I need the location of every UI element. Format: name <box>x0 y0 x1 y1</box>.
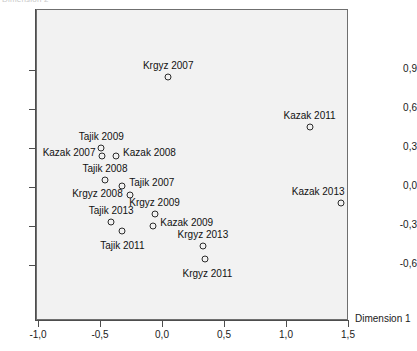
x-tick-mark <box>100 321 101 327</box>
y-axis-line <box>35 9 36 321</box>
y-tick-label: -0,3 <box>389 219 417 230</box>
x-tick-mark <box>348 321 349 327</box>
data-point-label: Tajik 2013 <box>89 205 134 216</box>
x-tick-label: 1,5 <box>341 329 355 340</box>
y-tick-label: 0,9 <box>389 63 417 74</box>
data-point-label: Kazak 2011 <box>284 110 336 121</box>
data-point-marker[interactable] <box>151 211 158 218</box>
y-tick-mark <box>29 148 35 149</box>
x-tick-label: -1,0 <box>29 329 46 340</box>
y-tick-label: 0,3 <box>389 141 417 152</box>
data-point-label: Tajik 2009 <box>79 131 124 142</box>
data-point-label: Tajik 2007 <box>129 177 174 188</box>
data-point-marker[interactable] <box>99 153 106 160</box>
y-axis-title: Dimension 2 <box>2 0 49 4</box>
data-point-marker[interactable] <box>101 176 108 183</box>
x-axis-line <box>36 320 349 321</box>
y-tick-mark <box>29 265 35 266</box>
x-tick-label: 1,0 <box>279 329 293 340</box>
y-tick-label: 0,6 <box>389 102 417 113</box>
x-tick-mark <box>162 321 163 327</box>
data-point-marker[interactable] <box>337 199 344 206</box>
data-point-marker[interactable] <box>199 242 206 249</box>
y-tick-mark <box>29 109 35 110</box>
y-tick-label: -0,6 <box>389 258 417 269</box>
data-point-label: Tajik 2008 <box>82 163 127 174</box>
data-point-marker[interactable] <box>165 73 172 80</box>
data-point-label: Tajik 2011 <box>100 240 144 251</box>
data-point-marker[interactable] <box>108 219 115 226</box>
y-tick-label: 0,0 <box>389 180 417 191</box>
x-tick-label: 0,5 <box>217 329 231 340</box>
data-point-label: Krgyz 2011 <box>182 268 232 279</box>
data-point-marker[interactable] <box>119 227 126 234</box>
data-point-label: Kazak 2007 <box>43 147 96 158</box>
y-tick-mark <box>29 70 35 71</box>
data-point-marker[interactable] <box>202 256 209 263</box>
x-tick-label: 0,0 <box>155 329 169 340</box>
data-point-label: Krgyz 2009 <box>129 197 180 208</box>
data-point-marker[interactable] <box>150 223 157 230</box>
data-point-marker[interactable] <box>113 153 120 160</box>
data-point-label: Kazak 2008 <box>123 147 176 158</box>
data-point-label: Krgyz 2013 <box>178 229 229 240</box>
x-tick-label: -0,5 <box>91 329 108 340</box>
data-point-label: Kazak 2013 <box>292 186 345 197</box>
data-point-marker[interactable] <box>306 124 313 131</box>
x-tick-mark <box>286 321 287 327</box>
data-point-label: Krgyz 2008 <box>72 188 123 199</box>
data-point-label: Kazak 2009 <box>160 217 213 228</box>
x-tick-mark <box>224 321 225 327</box>
y-tick-mark <box>29 187 35 188</box>
scatter-chart: Dimension 2 0,90,60,30,0-0,3-0,6 -1,0-0,… <box>0 0 417 351</box>
y-tick-mark <box>29 226 35 227</box>
x-tick-mark <box>38 321 39 327</box>
data-point-label: Krgyz 2007 <box>143 60 194 71</box>
data-point-marker[interactable] <box>98 145 105 152</box>
x-axis-title: Dimension 1 <box>355 313 411 324</box>
